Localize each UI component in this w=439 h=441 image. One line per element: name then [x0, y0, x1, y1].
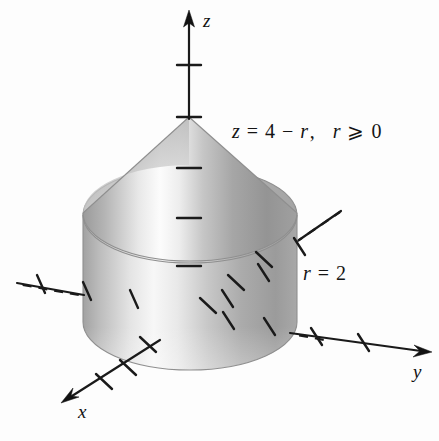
cone-equation-label: z = 4 − r, r ⩾ 0	[232, 119, 382, 143]
x-axis-arrowhead	[61, 388, 79, 403]
cone-eq-minus: −	[281, 120, 295, 142]
cyl-eq-var-r: r	[303, 262, 311, 284]
cone-eq-geq: ⩾	[346, 120, 366, 142]
cone-eq-var-r: r	[300, 120, 308, 142]
cone-eq-var-r2: r	[333, 120, 341, 142]
negative-y-axis-line	[299, 211, 341, 240]
cone-eq-var-z: z	[232, 120, 240, 142]
x-axis-label: x	[77, 401, 87, 422]
cone-eq-value: 4	[265, 120, 276, 142]
cone-eq-equals: =	[246, 120, 260, 142]
y-axis-label: y	[411, 361, 422, 382]
cone-eq-zero: 0	[371, 120, 382, 142]
z-axis-label: z	[202, 10, 211, 31]
cyl-eq-equals: =	[317, 262, 331, 284]
cylinder-equation-label: r = 2	[303, 262, 347, 285]
cone-eq-comma: ,	[309, 120, 317, 142]
negative-y-tick-left-1	[37, 275, 45, 293]
figure-container: z y x z = 4 − r, r ⩾ 0 r = 2	[0, 0, 439, 441]
cyl-eq-value: 2	[336, 262, 347, 284]
y-axis-line	[290, 333, 421, 351]
figure-svg: z y x	[0, 0, 439, 441]
negative-y-axis-left-line	[17, 283, 84, 295]
